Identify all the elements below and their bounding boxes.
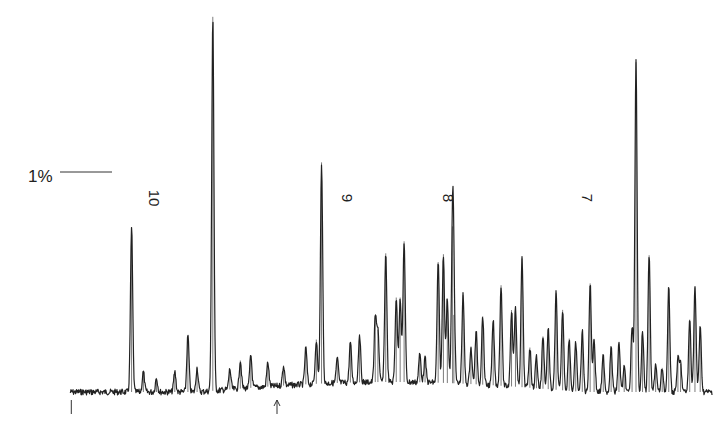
scale-bar-label: 1% xyxy=(28,167,53,186)
marker-label-9: 9 xyxy=(339,194,356,202)
peak-marks xyxy=(132,17,701,392)
spectrum-trace xyxy=(70,22,712,395)
baseline-ticks xyxy=(71,400,280,414)
marker-label-7: 7 xyxy=(579,194,596,202)
marker-label-8: 8 xyxy=(440,194,457,202)
scale-bar-group: 1% xyxy=(28,167,112,186)
marker-label-10: 10 xyxy=(146,190,163,207)
spectrum-chart: 1% 10987 xyxy=(0,0,722,435)
